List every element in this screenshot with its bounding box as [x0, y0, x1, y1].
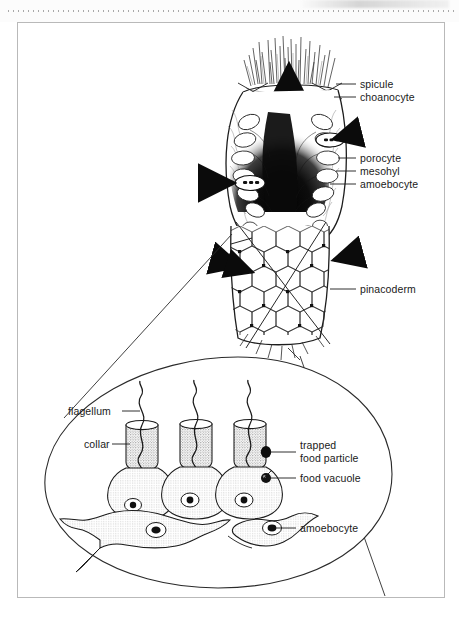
collar-2	[180, 424, 212, 470]
nucleus-2	[187, 497, 194, 504]
label-trapped-food-particle-line2: food particle	[300, 452, 359, 464]
amoebocyte-nucleus-2	[268, 525, 277, 532]
sponge-lower-body	[231, 226, 329, 345]
label-spicule: spicule	[360, 78, 393, 91]
label-amoebocyte-lower: amoebocyte	[300, 522, 358, 535]
label-pinacoderm: pinacoderm	[360, 283, 416, 296]
sponge-body-group	[208, 36, 358, 360]
label-collar: collar	[84, 438, 110, 451]
label-choanocyte: choanocyte	[360, 91, 415, 104]
porocyte-cell-right	[316, 133, 358, 147]
nucleus-1	[130, 502, 136, 508]
label-food-vacuole: food vacuole	[300, 472, 361, 485]
trapped-food-particle	[261, 446, 271, 458]
scanned-page: spicule choanocyte porocyte mesohyl amoe…	[0, 0, 459, 622]
label-trapped-food-particle: trapped food particle	[300, 439, 359, 464]
label-flagellum: flagellum	[68, 405, 111, 418]
connector-right-stub	[288, 348, 300, 360]
label-mesohyl: mesohyl	[360, 165, 400, 178]
nucleus-3	[241, 497, 248, 504]
collar-3	[234, 424, 266, 470]
collar-1	[126, 425, 158, 471]
porocyte-cell	[235, 176, 265, 191]
label-amoebocyte-upper: amoebocyte	[360, 178, 418, 191]
label-trapped-food-particle-line1: trapped	[300, 439, 336, 451]
cell-body-3	[216, 467, 283, 519]
amoebocyte-nucleus-1	[151, 526, 160, 533]
label-porocyte: porocyte	[360, 152, 401, 165]
